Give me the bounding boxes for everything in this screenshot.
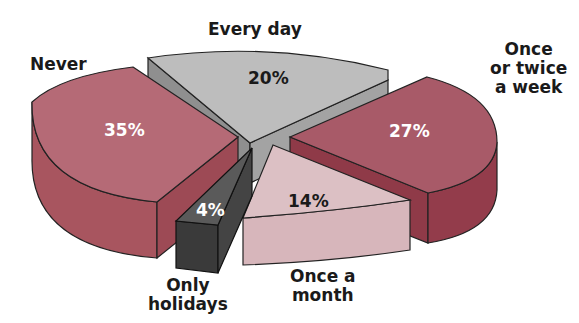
label-weekly-line1: Once	[490, 40, 567, 59]
label-once-or-twice-a-week: Once or twice a week	[490, 40, 567, 97]
label-holidays-line2: holidays	[148, 295, 228, 314]
percent-monthly: 14%	[288, 191, 329, 211]
label-weekly-line3: a week	[490, 78, 567, 97]
label-monthly-line2: month	[290, 286, 356, 305]
label-holidays-line1: Only	[148, 276, 228, 295]
label-never: Never	[30, 55, 87, 74]
label-every-day: Every day	[208, 20, 302, 39]
label-monthly-line1: Once a	[290, 267, 356, 286]
percent-never: 35%	[104, 120, 145, 140]
percent-weekly: 27%	[389, 121, 430, 141]
label-weekly-line2: or twice	[490, 59, 567, 78]
cropped-caption	[70, 0, 510, 3]
percent-every-day: 20%	[248, 68, 289, 88]
label-once-a-month: Once a month	[290, 267, 356, 305]
percent-holidays: 4%	[196, 200, 225, 220]
label-only-holidays: Only holidays	[148, 276, 228, 314]
